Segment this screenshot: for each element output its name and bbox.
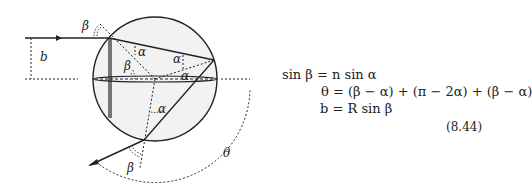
equation-number: (8.44) — [446, 120, 482, 134]
equation-b: b = R sin β — [320, 101, 392, 116]
equation-snell: sin β = n sin α — [282, 67, 377, 82]
equation-theta: θ = (β − α) + (π − 2α) + (β − α) — [321, 84, 532, 99]
